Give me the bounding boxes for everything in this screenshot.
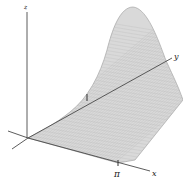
mesh-line xyxy=(0,5,183,35)
x-axis-negative xyxy=(8,131,28,138)
surface xyxy=(0,5,183,187)
surface-plot: π x y z xyxy=(0,0,183,187)
mesh-line xyxy=(0,16,183,46)
x-tick-label: π xyxy=(113,169,121,179)
x-axis-label: x xyxy=(152,169,157,178)
y-axis-negative xyxy=(12,138,28,149)
surface-patch xyxy=(28,7,183,163)
z-axis-label: z xyxy=(23,3,28,10)
mesh-line xyxy=(0,9,183,39)
mesh-line xyxy=(0,12,183,42)
y-axis-label: y xyxy=(173,52,179,61)
